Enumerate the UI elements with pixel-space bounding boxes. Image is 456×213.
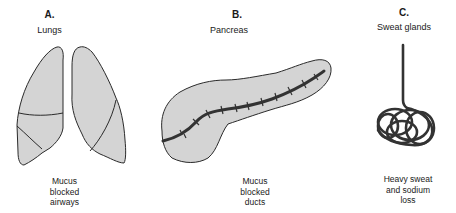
panel-caption: Mucus blocked ducts xyxy=(205,176,305,208)
panel-caption: Heavy sweat and sodium loss xyxy=(360,174,456,206)
caption-line: and sodium xyxy=(360,185,456,196)
panel-title: Pancreas xyxy=(179,25,279,35)
caption-line: blocked xyxy=(205,187,305,198)
panel-letter: A. xyxy=(3,9,96,20)
panel-sweat-glands: C. Sweat glands Heavy sweat and sodium l… xyxy=(356,0,452,213)
caption-line: loss xyxy=(360,195,456,206)
panel-pancreas: B. Pancreas Mucus blocked ducts xyxy=(185,0,285,213)
caption-line: ducts xyxy=(205,197,305,208)
caption-line: airways xyxy=(18,197,111,208)
caption-line: Mucus xyxy=(18,176,111,187)
panel-lungs: A. Lungs Mucus blocked airways xyxy=(3,0,96,213)
panel-title: Sweat glands xyxy=(356,22,452,32)
caption-line: Mucus xyxy=(205,176,305,187)
panel-letter: B. xyxy=(187,9,287,20)
caption-line: blocked xyxy=(18,187,111,198)
panel-caption: Mucus blocked airways xyxy=(18,176,111,208)
caption-line: Heavy sweat xyxy=(360,174,456,185)
panel-letter: C. xyxy=(356,7,452,18)
panel-title: Lungs xyxy=(3,25,96,35)
